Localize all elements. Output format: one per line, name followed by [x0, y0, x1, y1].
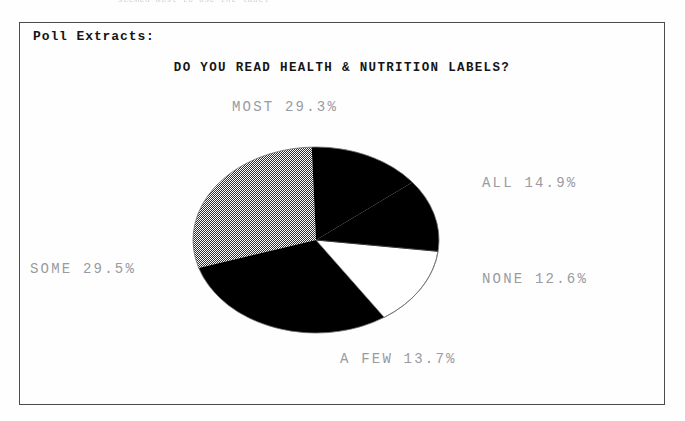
cut-off-running-text: seemed most to use the label — [118, 0, 368, 4]
slice-divider-all-none — [316, 240, 438, 251]
pie-slice-all — [312, 147, 413, 240]
pie-chart — [20, 23, 666, 406]
pie-slice-some — [199, 240, 385, 333]
pie-slice-none — [316, 182, 439, 251]
pie-slice-a-few — [316, 240, 438, 317]
slice-label-some: SOME 29.5% — [30, 261, 136, 277]
scanned-page: seemed most to use the label Poll Extrac… — [0, 0, 685, 421]
pie-chart-svg — [20, 23, 666, 406]
chart-title: DO YOU READ HEALTH & NUTRITION LABELS? — [20, 61, 664, 75]
slice-label-all: ALL 14.9% — [482, 175, 577, 191]
panel-title: Poll Extracts: — [33, 29, 155, 44]
slice-label-most: MOST 29.3% — [232, 99, 338, 115]
slice-label-none: NONE 12.6% — [482, 271, 588, 287]
pie-slice-most — [193, 147, 316, 268]
poll-extract-frame: Poll Extracts: DO YOU READ HEALTH & NUTR… — [19, 22, 665, 405]
slice-label-a-few: A FEW 13.7% — [340, 351, 457, 367]
pie-outline — [193, 147, 439, 333]
